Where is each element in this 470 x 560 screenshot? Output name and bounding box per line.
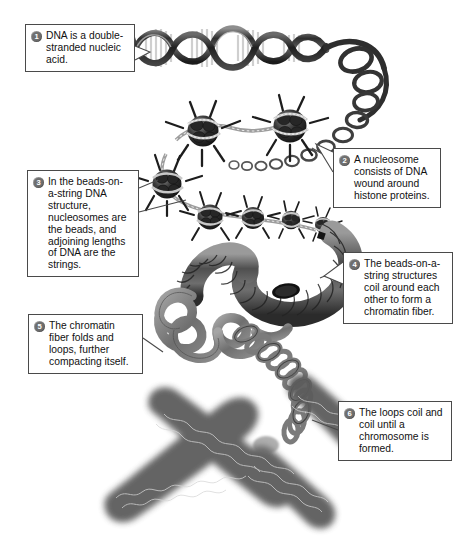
callout-number-badge: 4 [349, 259, 360, 270]
callout-text: A nucleosome consists of DNA wound aroun… [354, 154, 434, 202]
callout-chromatin-fiber: 4 The beads-on-a-string structures coil … [343, 252, 453, 324]
callout-number-badge: 5 [34, 321, 45, 332]
callout-chromosome: 6 The loops coil and coil until a chromo… [338, 401, 452, 461]
dna-packaging-figure: 1 DNA is a double-stranded nucleic acid.… [0, 0, 470, 560]
callout-folding-looping: 5 The chromatin fiber folds and loops, f… [28, 314, 143, 374]
callout-text: The chromatin fiber folds and loops, fur… [49, 320, 136, 368]
callout-number-badge: 6 [344, 408, 355, 419]
callout-number-badge: 2 [339, 155, 350, 166]
callout-nucleosome: 2 A nucleosome consists of DNA wound aro… [333, 148, 441, 208]
callout-text: DNA is a double-stranded nucleic acid. [46, 30, 128, 66]
callout-beads-on-a-string: 3 In the beads-on-a-string DNA structure… [27, 170, 139, 277]
callout-text: The loops coil and coil until a chromoso… [359, 407, 445, 455]
callout-number-badge: 3 [33, 177, 44, 188]
callout-text: The beads-on-a-string structures coil ar… [364, 258, 446, 318]
callout-number-badge: 1 [31, 31, 42, 42]
callout-text: In the beads-on-a-string DNA structure, … [48, 176, 132, 271]
callout-dna: 1 DNA is a double-stranded nucleic acid. [25, 24, 135, 72]
